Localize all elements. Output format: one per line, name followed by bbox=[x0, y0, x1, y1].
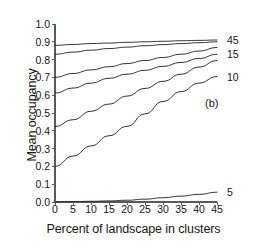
series-edge-label-5: 5 bbox=[227, 187, 233, 197]
chart-figure: Mean occupancy 0.00.10.20.30.40.50.60.70… bbox=[0, 0, 257, 248]
panel-annotation: (b) bbox=[205, 97, 218, 109]
series-edge-label-45: 45 bbox=[227, 35, 239, 45]
series-edge-label-15: 15 bbox=[227, 49, 239, 59]
series-edge-labels: 4515105 bbox=[0, 0, 257, 248]
series-edge-label-10: 10 bbox=[227, 72, 239, 82]
